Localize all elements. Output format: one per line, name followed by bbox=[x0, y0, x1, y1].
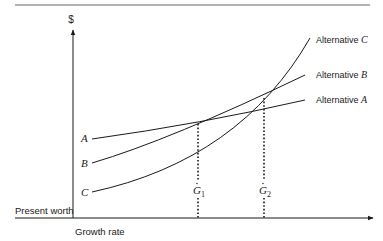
curve-b-end-label: Alternative B bbox=[316, 69, 367, 80]
x-axis-title: Growth rate bbox=[75, 226, 125, 237]
curve-c-end-label: Alternative C bbox=[316, 34, 368, 45]
curve-alternative-a bbox=[92, 100, 305, 139]
curve-b-start-label: B bbox=[81, 157, 88, 169]
y-axis-title: Present worth bbox=[15, 205, 74, 216]
y-axis-label: $ bbox=[68, 14, 74, 25]
present-worth-growth-diagram: $ Present worth Growth rate A B C Altern… bbox=[0, 0, 383, 241]
g2-marker-label: G2 bbox=[259, 184, 271, 199]
g2-dot-accent bbox=[262, 183, 263, 184]
curve-alternative-c bbox=[92, 38, 310, 192]
curve-c-start-label: C bbox=[81, 186, 89, 198]
curve-a-end-label: Alternative A bbox=[316, 94, 368, 105]
g1-marker-label: G1 bbox=[193, 184, 205, 199]
curve-a-start-label: A bbox=[80, 132, 88, 144]
g1-dot-accent bbox=[196, 183, 197, 184]
